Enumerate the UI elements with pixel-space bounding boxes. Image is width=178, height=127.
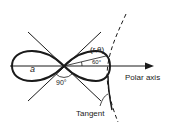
label-point: (r,θ) [90,45,105,54]
center-angle-arc [56,74,72,77]
label-polar-axis: Polar axis [125,73,160,82]
label-point-angle: 60° [92,59,102,65]
tangent-leader [100,94,108,106]
label-a: a [30,64,35,74]
tangent-line [108,76,112,110]
lemniscate-diagram: a 90° (r,θ) 60° Polar axis Tangent [0,0,178,127]
label-center-angle: 90° [56,79,67,86]
angle-arc [82,62,83,66]
label-tangent: Tangent [76,109,105,118]
polar-axis-arrow-icon [145,63,154,70]
